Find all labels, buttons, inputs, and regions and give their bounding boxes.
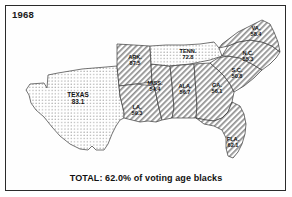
total-caption: TOTAL: 62.0% of voting age blacks [0, 173, 292, 183]
state-shape-alabama [170, 64, 197, 118]
voting-registration-map-figure: 1968 TEXAS [0, 0, 292, 197]
state-shape-texas [26, 66, 124, 150]
state-shape-arkansas [117, 44, 152, 86]
map-graphic [0, 0, 292, 197]
